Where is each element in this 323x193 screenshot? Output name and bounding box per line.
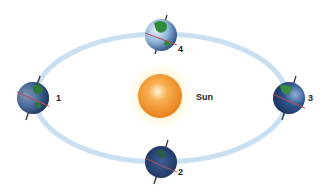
earth-4-label: 4 [178,44,183,54]
earth-1-icon [17,76,49,120]
sun-icon [122,58,198,134]
sun-label: Sun [196,92,213,102]
earth-3-icon [273,76,305,120]
earth-4-icon [145,15,177,54]
earth-2-label: 2 [178,167,183,177]
earth-2-icon [145,140,177,184]
orbit-diagram [0,0,323,193]
earth-3-label: 3 [308,93,313,103]
earth-1-label: 1 [56,93,61,103]
